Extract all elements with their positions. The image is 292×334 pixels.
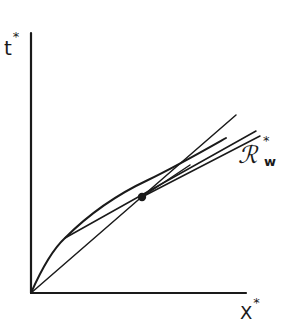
x-axis-label: X* [240, 301, 260, 322]
marked-point [138, 193, 146, 201]
curve-label: ℛ*w [238, 143, 257, 167]
ray-through-point [31, 115, 236, 293]
y-axis-label: t* [4, 36, 19, 58]
diagram-figure: t* X* ℛ*w [0, 0, 292, 334]
concave-curve [31, 138, 226, 293]
chord-cross [142, 165, 190, 197]
